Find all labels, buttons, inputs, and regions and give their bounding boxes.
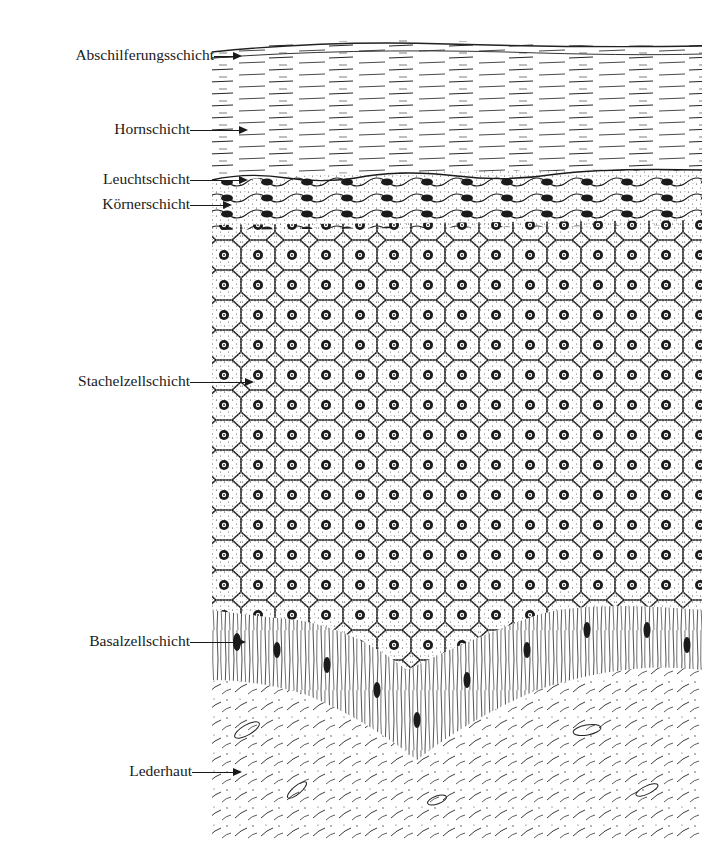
label-stachelzellschicht: Stachelzellschicht <box>78 372 190 390</box>
pointer-arrow-stachelzellschicht <box>190 382 252 383</box>
label-hornschicht: Hornschicht <box>114 120 190 138</box>
pointer-arrow-hornschicht <box>190 130 246 131</box>
label-basalzellschicht: Basalzellschicht <box>89 632 190 650</box>
pointer-arrow-basalzellschicht <box>190 642 244 643</box>
label-koernerschicht: Körnerschicht <box>102 195 190 213</box>
skin-layers-illustration <box>207 30 707 840</box>
label-leuchtschicht: Leuchtschicht <box>103 170 190 188</box>
pointer-arrow-leuchtschicht <box>190 180 246 181</box>
pointer-arrow-abschilferungsschicht <box>214 56 240 57</box>
pointer-arrow-koernerschicht <box>190 205 230 206</box>
label-abschilferungsschicht: Abschilferungsschicht <box>75 46 214 64</box>
label-lederhaut: Lederhaut <box>129 762 192 780</box>
pointer-arrow-lederhaut <box>192 772 240 773</box>
